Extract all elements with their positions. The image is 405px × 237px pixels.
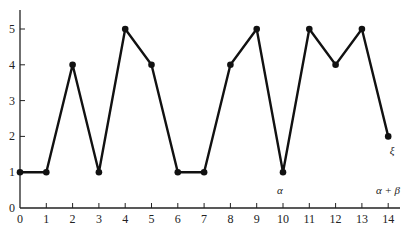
x-tick-label: 5 (149, 212, 155, 226)
data-point (227, 62, 234, 69)
annotations: α α + β ξ (277, 144, 400, 196)
x-tick-label: 3 (96, 212, 102, 226)
y-tick-label: 3 (9, 94, 15, 108)
alpha-label: α (277, 184, 283, 196)
x-tick-label: 6 (175, 212, 181, 226)
data-point (201, 169, 208, 176)
x-tick-label: 1 (43, 212, 49, 226)
data-point (280, 169, 287, 176)
data-point (385, 133, 392, 140)
data-point (43, 169, 50, 176)
x-tick-label: 13 (356, 212, 368, 226)
y-tick-label: 4 (9, 58, 15, 72)
data-point (148, 62, 155, 69)
xi-label: ξ (390, 144, 395, 157)
data-point (17, 169, 24, 176)
axis-ticks: 01234567891011121314012345 (9, 22, 394, 226)
y-tick-label: 0 (9, 201, 15, 215)
data-series (20, 29, 388, 172)
line-chart: 01234567891011121314012345 α α + β ξ (0, 0, 405, 237)
data-point (175, 169, 182, 176)
y-tick-label: 1 (9, 165, 15, 179)
x-tick-label: 14 (382, 212, 394, 226)
data-point (306, 26, 313, 33)
data-point (122, 26, 129, 33)
x-tick-label: 2 (70, 212, 76, 226)
x-tick-label: 11 (304, 212, 316, 226)
data-point (96, 169, 103, 176)
x-tick-label: 8 (227, 212, 233, 226)
x-tick-label: 9 (254, 212, 260, 226)
x-tick-label: 0 (17, 212, 23, 226)
y-tick-label: 2 (9, 129, 15, 143)
y-tick-label: 5 (9, 22, 15, 36)
x-tick-label: 4 (122, 212, 128, 226)
data-point (253, 26, 260, 33)
data-point (332, 62, 339, 69)
data-points (17, 26, 392, 176)
x-tick-label: 7 (201, 212, 207, 226)
x-tick-label: 10 (277, 212, 289, 226)
x-tick-label: 12 (330, 212, 342, 226)
data-point (69, 62, 76, 69)
alpha-plus-beta-label: α + β (376, 184, 401, 196)
data-point (359, 26, 366, 33)
series-line (20, 29, 388, 172)
axes (20, 10, 400, 208)
